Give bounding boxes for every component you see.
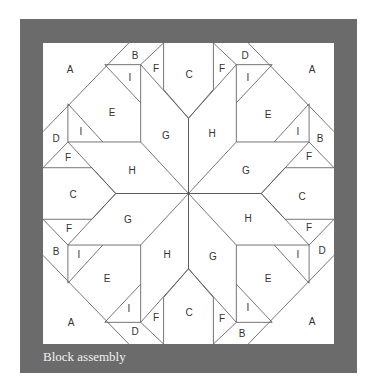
piece-label: G	[242, 165, 250, 176]
piece-label: I	[297, 126, 300, 137]
piece-label: H	[208, 128, 215, 139]
piece-label: F	[66, 223, 72, 234]
piece-label: F	[306, 222, 312, 233]
piece-label: F	[306, 151, 312, 162]
piece-label: A	[309, 64, 316, 75]
piece-label: F	[65, 152, 71, 163]
caption: Block assembly	[43, 349, 126, 365]
piece-label: D	[318, 245, 325, 256]
piece-label: D	[52, 133, 59, 144]
piece-label: I	[129, 72, 132, 83]
piece-label: I	[128, 303, 131, 314]
piece-label: B	[239, 328, 246, 339]
piece-label: A	[68, 317, 75, 328]
piece-label: B	[53, 246, 60, 257]
piece-label: F	[219, 313, 225, 324]
piece-label: H	[128, 165, 135, 176]
piece-label: G	[124, 214, 132, 225]
piece-label: F	[153, 63, 159, 74]
piece-label: D	[241, 50, 248, 61]
piece-label: C	[185, 69, 192, 80]
piece-label: C	[185, 307, 192, 318]
piece-label: I	[297, 249, 300, 260]
piece-label: B	[132, 50, 139, 61]
piece-label: A	[309, 316, 316, 327]
piece-label: I	[247, 302, 250, 313]
piece-label: D	[131, 326, 138, 337]
piece-label: C	[69, 189, 76, 200]
piece-label: H	[163, 249, 170, 260]
piece-label: E	[265, 273, 272, 284]
piece-label: H	[244, 213, 251, 224]
piece-label: E	[104, 273, 111, 284]
piece-label: A	[67, 64, 74, 75]
piece-label: F	[153, 312, 159, 323]
piece-label: I	[78, 249, 81, 260]
piece-label: I	[247, 72, 250, 83]
piece-label: E	[265, 109, 272, 120]
piece-label: I	[80, 126, 83, 137]
piece-label: E	[109, 107, 116, 118]
piece-label: G	[209, 251, 217, 262]
piece-label: B	[317, 133, 324, 144]
piece-label: C	[298, 191, 305, 202]
piece-label: F	[219, 63, 225, 74]
block-assembly-diagram	[43, 43, 334, 344]
piece-label: G	[162, 130, 170, 141]
